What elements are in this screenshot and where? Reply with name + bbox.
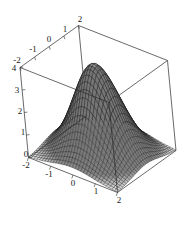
x-tick-label: -1 [45, 169, 53, 179]
y-tick-label: 0 [47, 34, 52, 44]
z-tick-label: 1 [21, 127, 26, 137]
x-tick-label: -2 [22, 160, 30, 170]
y-tick-label: 2 [78, 14, 83, 24]
x-tick-label: 2 [117, 195, 122, 205]
y-tick-label: -1 [29, 44, 37, 54]
z-tick-label: 2 [18, 106, 23, 116]
z-tick-label: 4 [12, 63, 17, 73]
z-tick-label: 0 [24, 149, 29, 159]
z-tick-label: 3 [15, 85, 20, 95]
surface-plot-figure: -2-1012-2-101243210 [0, 0, 181, 225]
plot-canvas: -2-1012-2-101243210 [0, 0, 181, 225]
x-tick-label: 0 [71, 178, 76, 188]
x-tick-label: 1 [94, 186, 99, 196]
y-tick-label: 1 [63, 24, 68, 34]
